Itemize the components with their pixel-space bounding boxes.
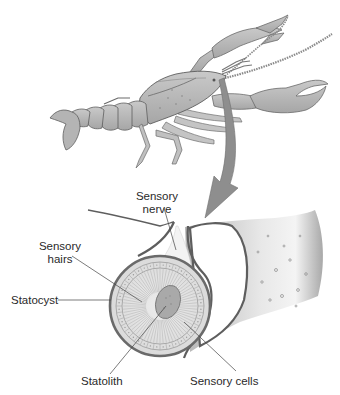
sensory-cell-nucleus bbox=[118, 309, 119, 310]
sensory-cell-nucleus bbox=[121, 290, 122, 291]
sensory-cell-nucleus bbox=[124, 327, 125, 328]
label-sensory-cells: Sensory cells bbox=[190, 375, 258, 388]
sensory-cell-nucleus bbox=[186, 274, 187, 275]
sensory-cell-nucleus bbox=[175, 343, 176, 344]
eye bbox=[213, 79, 216, 82]
statocyst-diagram: Sensory nerve Sensory hairs Statocyst St… bbox=[0, 0, 340, 395]
label-sensory-nerve-line2: nerve bbox=[122, 203, 192, 216]
sensory-cell-nucleus bbox=[128, 332, 129, 333]
sensory-cell-nucleus bbox=[181, 270, 182, 271]
sensory-cell-nucleus bbox=[200, 309, 201, 310]
sensory-cell-nucleus bbox=[163, 346, 164, 347]
sensory-cell-nucleus bbox=[144, 343, 145, 344]
sensory-cell-nucleus bbox=[124, 284, 125, 285]
sensory-cell-nucleus bbox=[119, 296, 120, 297]
sensory-cell-nucleus bbox=[138, 270, 139, 271]
sensory-cell-nucleus bbox=[191, 279, 192, 280]
sensory-cell-nucleus bbox=[144, 267, 145, 268]
sensory-cell-nucleus bbox=[118, 302, 119, 303]
sensory-cell-nucleus bbox=[191, 332, 192, 333]
sensory-cell-nucleus bbox=[175, 267, 176, 268]
label-sensory-nerve-line1: Sensory bbox=[122, 190, 192, 203]
sensory-cell-nucleus bbox=[199, 296, 200, 297]
abdomen bbox=[72, 101, 148, 130]
label-sensory-hairs: Sensory hairs bbox=[30, 240, 90, 266]
label-statolith: Statolith bbox=[81, 375, 123, 388]
tail-fan bbox=[50, 110, 80, 150]
sensory-cell-nucleus bbox=[121, 321, 122, 322]
sensory-cell-nucleus bbox=[194, 284, 195, 285]
sensory-cell-nucleus bbox=[169, 265, 170, 266]
sensory-cell-nucleus bbox=[128, 279, 129, 280]
label-sensory-nerve: Sensory nerve bbox=[122, 190, 192, 216]
sensory-cell-nucleus bbox=[150, 265, 151, 266]
sensory-cell-nucleus bbox=[150, 345, 151, 346]
sensory-cell-nucleus bbox=[133, 337, 134, 338]
upper-claw bbox=[190, 15, 288, 74]
label-sensory-hairs-line1: Sensory bbox=[30, 240, 90, 253]
sensory-cell-nucleus bbox=[200, 302, 201, 303]
sensory-cell-nucleus bbox=[156, 264, 157, 265]
label-sensory-hairs-line2: hairs bbox=[30, 253, 90, 266]
sensory-cell-nucleus bbox=[197, 290, 198, 291]
sensory-cell-nucleus bbox=[133, 274, 134, 275]
statocyst bbox=[110, 256, 210, 356]
sensory-cell-nucleus bbox=[186, 337, 187, 338]
sensory-cell-nucleus bbox=[138, 340, 139, 341]
label-statocyst: Statocyst bbox=[11, 294, 58, 307]
sensory-cell-nucleus bbox=[194, 327, 195, 328]
sensory-cell-nucleus bbox=[197, 321, 198, 322]
sensory-cell-nucleus bbox=[199, 315, 200, 316]
crayfish bbox=[50, 15, 332, 168]
sensory-cell-nucleus bbox=[163, 264, 164, 265]
sensory-cell-nucleus bbox=[156, 346, 157, 347]
sensory-cell-nucleus bbox=[181, 340, 182, 341]
sensory-cell-nucleus bbox=[119, 315, 120, 316]
sensory-cell-nucleus bbox=[169, 345, 170, 346]
